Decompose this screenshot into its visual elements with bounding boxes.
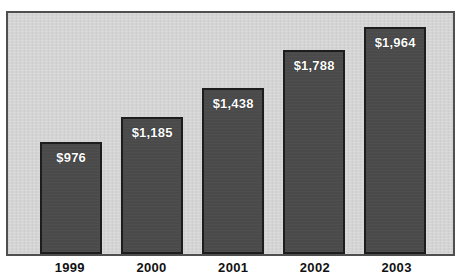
bar-2002[interactable]: $1,788 (283, 50, 345, 254)
bar-value-label-2002: $1,788 (285, 59, 343, 72)
bar-1999[interactable]: $976 (40, 142, 102, 254)
bar-value-label-2001: $1,438 (204, 97, 262, 110)
bar-group-2002: $1,788 (283, 50, 345, 254)
bar-texture (285, 52, 343, 252)
bar-value-label-1999: $976 (42, 151, 100, 164)
x-tick-label-2003: 2003 (365, 261, 428, 274)
bar-2003[interactable]: $1,964 (364, 27, 426, 254)
bars-layer: $976 $1,185 $1,438 $1,788 (8, 13, 453, 254)
bar-2001[interactable]: $1,438 (202, 88, 264, 254)
bar-group-2003: $1,964 (364, 27, 426, 254)
bar-value-label-2000: $1,185 (123, 126, 181, 139)
bar-chart-figure: $976 $1,185 $1,438 $1,788 (0, 0, 461, 279)
x-tick-label-2002: 2002 (283, 261, 346, 274)
bar-texture (204, 90, 262, 252)
bar-texture (366, 29, 424, 252)
x-tick-label-2001: 2001 (202, 261, 265, 274)
bar-value-label-2003: $1,964 (366, 36, 424, 49)
bar-2000[interactable]: $1,185 (121, 117, 183, 254)
bar-group-2001: $1,438 (202, 88, 264, 254)
x-tick-label-1999: 1999 (38, 261, 101, 274)
bar-group-2000: $1,185 (121, 117, 183, 254)
bar-group-1999: $976 (40, 142, 102, 254)
x-axis-category-labels: 1999 2000 2001 2002 2003 (6, 258, 455, 279)
x-tick-label-2000: 2000 (120, 261, 183, 274)
plot-area: $976 $1,185 $1,438 $1,788 (6, 11, 455, 256)
